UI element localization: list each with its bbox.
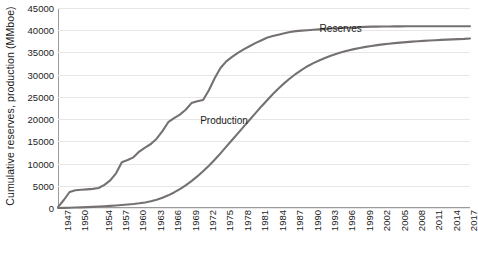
x-axis-tick-label: 1993 [329,210,340,231]
chart-container: Cumulative reserves, production (MMboe) … [0,0,478,256]
gridline [58,208,470,209]
series-label-production: Production [200,115,248,126]
x-axis-tick-label: 1996 [346,210,357,231]
x-axis-tick-label: 1975 [224,210,235,231]
x-axis-tick-label: 1966 [172,210,183,231]
y-axis-tick-label: 30000 [18,69,54,80]
x-axis-tick-label: 1981 [259,210,270,231]
x-axis-tick-label: 1954 [103,210,114,231]
y-axis-tick-label: 45000 [18,3,54,14]
y-axis-title-label: Cumulative reserves, production (MMboe) [4,6,16,205]
series-label-reserves: Reserves [320,23,362,34]
series-layer [58,8,470,208]
x-axis-tick-label: 1957 [120,210,131,231]
y-axis-tick-label: 20000 [18,114,54,125]
x-axis-tick-label: 2005 [399,210,410,231]
series-line-production [58,38,470,208]
x-axis-tick-label: 2008 [416,210,427,231]
y-axis-tick-label: 25000 [18,91,54,102]
x-axis-tick-label: 1987 [294,210,305,231]
x-axis-tick-label: 1972 [207,210,218,231]
x-axis-tick-label: 1963 [155,210,166,231]
y-axis-tick-label: 10000 [18,158,54,169]
x-axis-tick-label: 2011 [433,210,444,230]
y-axis-tick-label: 5000 [18,180,54,191]
x-axis-tick-label: 1984 [277,210,288,231]
plot-area: ReservesProduction [58,8,470,208]
x-axis-tick-label: 1947 [62,210,73,231]
x-axis-tick-label: 2002 [381,210,392,231]
x-axis-tick-label: 1969 [190,210,201,231]
y-axis-title: Cumulative reserves, production (MMboe) [0,0,20,212]
y-axis-tick-labels: 0500010000150002000025000300003500040000… [20,0,56,212]
x-axis-tick-labels: 1947195019541957196019631966196919721975… [58,210,470,256]
x-axis-tick-label: 2017 [468,210,478,231]
y-axis-tick-label: 40000 [18,25,54,36]
y-axis-tick-label: 0 [18,203,54,214]
series-line-reserves [58,26,470,207]
y-axis-tick-label: 15000 [18,136,54,147]
x-axis-tick-label: 2014 [451,210,462,231]
x-axis-tick-label: 1990 [312,210,323,231]
x-axis-tick-label: 1978 [242,210,253,231]
y-axis-tick-label: 35000 [18,47,54,58]
x-axis-tick-label: 1999 [364,210,375,231]
x-axis-tick-label: 1950 [79,210,90,231]
x-axis-tick-label: 1960 [137,210,148,231]
